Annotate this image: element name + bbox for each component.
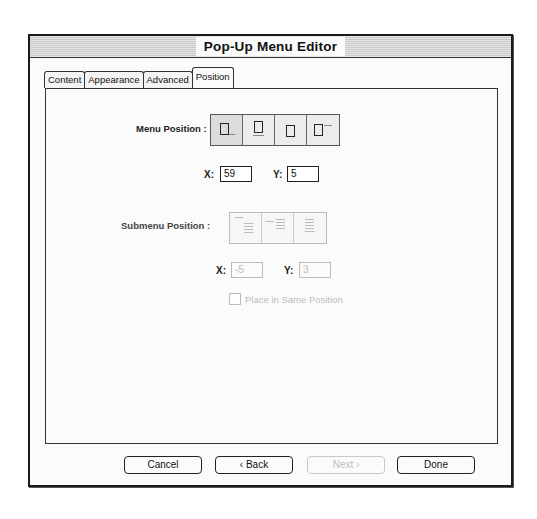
menu-position-option-4[interactable]: [307, 115, 339, 145]
same-position-checkbox[interactable]: [229, 293, 241, 305]
cancel-button[interactable]: Cancel: [124, 456, 202, 474]
next-button[interactable]: Next ›: [307, 456, 385, 474]
submenu-position-selector: [229, 212, 327, 244]
submenu-position-label: Submenu Position :: [121, 220, 210, 231]
submenu-x-input[interactable]: [231, 262, 263, 278]
menu-x-label: X:: [204, 169, 214, 180]
submenu-position-option-1[interactable]: [230, 213, 262, 243]
menu-position-label: Menu Position :: [136, 123, 207, 134]
menu-position-option-3[interactable]: [275, 115, 307, 145]
submenu-position-option-3[interactable]: [294, 213, 326, 243]
tab-content[interactable]: Content: [44, 71, 85, 88]
menu-position-option-2[interactable]: [243, 115, 275, 145]
back-button[interactable]: ‹ Back: [215, 456, 293, 474]
same-position-option[interactable]: Place in Same Position: [229, 293, 343, 305]
menu-x-input[interactable]: [220, 166, 252, 182]
submenu-right-icon: [262, 213, 293, 243]
position-below-right-icon: [211, 115, 242, 145]
menu-y-input[interactable]: [287, 166, 319, 182]
pop-up-menu-editor-window: Pop-Up Menu Editor Content Appearance Ad…: [28, 34, 513, 487]
position-below-icon: [243, 115, 274, 145]
title-bar[interactable]: Pop-Up Menu Editor: [30, 36, 511, 58]
submenu-x-label: X:: [216, 265, 226, 276]
window-title: Pop-Up Menu Editor: [196, 37, 345, 56]
tab-advanced[interactable]: Advanced: [143, 71, 193, 88]
position-centered-icon: [275, 115, 306, 145]
tab-bar: Content Appearance Advanced Position: [44, 70, 233, 88]
submenu-stacked-icon: [294, 213, 326, 243]
position-panel: Menu Position :: [45, 88, 498, 444]
submenu-below-right-icon: [230, 213, 261, 243]
position-right-icon: [307, 115, 339, 145]
tab-appearance[interactable]: Appearance: [84, 71, 143, 88]
submenu-y-input[interactable]: [299, 262, 331, 278]
submenu-y-label: Y:: [284, 265, 293, 276]
tab-position[interactable]: Position: [192, 67, 234, 88]
done-button[interactable]: Done: [397, 456, 475, 474]
menu-y-label: Y:: [273, 169, 282, 180]
menu-position-selector: [210, 114, 340, 146]
same-position-label: Place in Same Position: [245, 294, 343, 305]
menu-position-option-1[interactable]: [211, 115, 243, 145]
submenu-position-option-2[interactable]: [262, 213, 294, 243]
